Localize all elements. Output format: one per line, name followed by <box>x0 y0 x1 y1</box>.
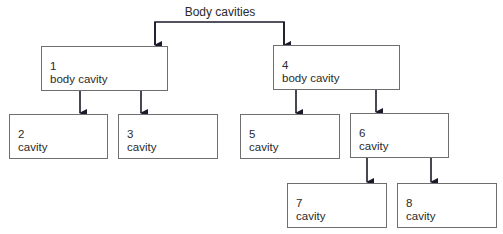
node-box-1: 1 body cavity <box>41 46 168 91</box>
diagram-title: Body cavities <box>0 5 440 19</box>
node-number: 4 <box>282 59 288 72</box>
node-label: cavity <box>296 210 325 223</box>
node-box-5: 5 cavity <box>240 114 340 159</box>
node-label: cavity <box>249 141 278 154</box>
node-number: 7 <box>296 197 302 210</box>
node-box-2: 2 cavity <box>9 114 108 159</box>
node-label: body cavity <box>282 72 340 85</box>
node-box-3: 3 cavity <box>118 114 218 159</box>
node-number: 3 <box>127 128 133 141</box>
node-label: cavity <box>18 141 47 154</box>
node-box-8: 8 cavity <box>397 183 497 228</box>
node-number: 6 <box>359 127 365 140</box>
node-number: 5 <box>249 128 255 141</box>
node-number: 8 <box>406 197 412 210</box>
node-box-6: 6 cavity <box>350 113 449 158</box>
node-number: 1 <box>50 60 56 73</box>
node-label: cavity <box>406 210 435 223</box>
node-label: cavity <box>127 141 156 154</box>
node-number: 2 <box>18 128 24 141</box>
node-label: body cavity <box>50 73 108 86</box>
node-label: cavity <box>359 140 388 153</box>
node-box-7: 7 cavity <box>287 183 387 228</box>
node-box-4: 4 body cavity <box>273 45 400 90</box>
